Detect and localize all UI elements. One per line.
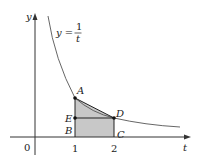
x-axis-arrow-icon: [184, 135, 191, 140]
equation-numerator: 1: [76, 21, 82, 32]
origin-label: 0: [24, 142, 30, 153]
equation-lhs: y =: [55, 27, 73, 38]
y-axis-label: y: [25, 11, 32, 22]
equation-denominator: t: [76, 33, 81, 44]
y-axis-arrow-icon: [33, 13, 38, 20]
tick-label-1: 1: [72, 143, 78, 154]
point-label-C: C: [117, 129, 125, 140]
point-label-E: E: [64, 113, 73, 124]
point-A: [73, 96, 77, 100]
x-axis-label: t: [183, 142, 188, 153]
point-label-D: D: [115, 108, 124, 119]
diagram-canvas: y t 0 1 2 A D E B C y = 1 t: [0, 0, 197, 163]
point-E: [73, 116, 77, 120]
tick-label-2: 2: [111, 143, 117, 154]
point-label-A: A: [76, 85, 84, 96]
point-label-B: B: [64, 125, 72, 136]
